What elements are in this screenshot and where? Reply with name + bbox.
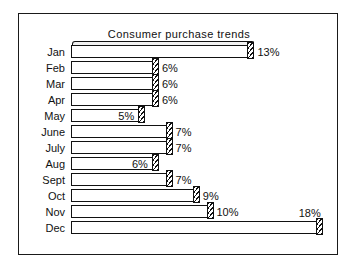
bar [71,189,194,202]
bar-category-label: Mar [19,76,65,92]
bar-value-label: 6% [71,156,148,172]
bar-value-label: 7% [176,124,192,140]
bar [71,61,153,74]
bar-end-cap-icon [247,42,254,59]
bar-value-label: 6% [162,60,178,76]
bar-row: Feb6% [19,60,339,76]
bar-row: June7% [19,124,339,140]
bar-end-cap-icon [152,58,159,75]
bar-category-label: May [19,108,65,124]
bar-end-cap-icon [152,90,159,107]
bar [71,221,317,234]
bar-row: Dec18% [19,220,339,236]
bar-category-label: Jan [19,44,65,60]
bar-end-cap-icon [166,170,173,187]
bar-end-cap-icon [166,122,173,139]
bar-row: Apr6% [19,92,339,108]
bar-value-label: 18% [71,205,321,221]
bar-end-cap-icon [138,106,145,123]
bar [71,125,167,138]
bar-end-cap-icon [152,74,159,91]
bar-row: July7% [19,140,339,156]
bar [71,141,167,154]
chart-frame: Consumer purchase trends Jan13%Feb6%Mar6… [18,13,338,255]
bar-row: Oct9% [19,188,339,204]
bar-category-label: July [19,140,65,156]
bar-value-label: 5% [71,108,134,124]
bar [71,77,153,90]
bar-category-label: Oct [19,188,65,204]
bar-category-label: Aug [19,156,65,172]
bar-category-label: Dec [19,220,65,236]
bar-category-label: June [19,124,65,140]
bar-category-label: Apr [19,92,65,108]
bar-category-label: Feb [19,60,65,76]
bar-row: Jan13% [19,44,339,60]
bar-value-label: 13% [257,44,279,60]
bar-end-cap-icon [193,186,200,203]
bar-row: Aug6% [19,156,339,172]
bar [71,45,248,58]
bar [71,173,167,186]
bar-row: Mar6% [19,76,339,92]
bar-category-label: Sept [19,172,65,188]
bar [71,93,153,106]
bar-value-label: 7% [176,140,192,156]
chart-title: Consumer purchase trends [19,28,339,40]
bar-row: May5% [19,108,339,124]
bar-value-label: 6% [162,92,178,108]
bar-row: Sept7% [19,172,339,188]
bar-chart-plot-area: Jan13%Feb6%Mar6%Apr6%May5%June7%July7%Au… [19,44,339,244]
bar-end-cap-icon [152,154,159,171]
bar-value-label: 6% [162,76,178,92]
bar-category-label: Nov [19,204,65,220]
bar-end-cap-icon [166,138,173,155]
bar-value-label: 7% [176,172,192,188]
